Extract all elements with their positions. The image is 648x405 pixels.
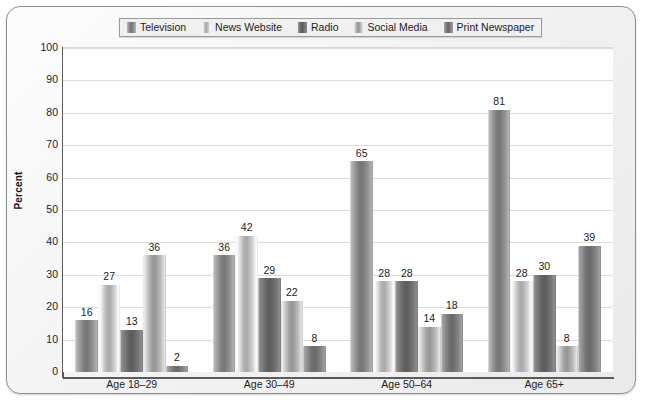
bar-value-label: 81 bbox=[493, 96, 505, 107]
bar-slot: 2 bbox=[166, 48, 189, 372]
bar-slot: 30 bbox=[533, 48, 556, 372]
y-tick-label: 80 bbox=[28, 107, 58, 118]
bar-slot: 22 bbox=[281, 48, 304, 372]
bar[interactable] bbox=[281, 301, 304, 372]
legend-label: Radio bbox=[311, 22, 338, 33]
legend-label: Television bbox=[140, 22, 186, 33]
bar[interactable] bbox=[303, 346, 326, 372]
bar-slot: 13 bbox=[120, 48, 143, 372]
bar-value-label: 2 bbox=[174, 352, 180, 363]
y-tick-label: 100 bbox=[28, 42, 58, 53]
bar-slot: 27 bbox=[98, 48, 121, 372]
bar-slot: 81 bbox=[488, 48, 511, 372]
bar-slot: 65 bbox=[350, 48, 373, 372]
bar[interactable] bbox=[373, 281, 396, 372]
bar[interactable] bbox=[578, 246, 601, 372]
x-axis-label: Age 50–64 bbox=[338, 378, 476, 390]
legend-label: News Website bbox=[215, 22, 282, 33]
bar[interactable] bbox=[166, 366, 189, 372]
legend-item-print-newspaper[interactable]: Print Newspaper bbox=[444, 22, 535, 33]
legend-item-news-website[interactable]: News Website bbox=[202, 22, 282, 33]
bar[interactable] bbox=[235, 236, 258, 372]
bar-value-label: 13 bbox=[126, 316, 138, 327]
y-tick-label: 10 bbox=[28, 333, 58, 344]
bar-slot: 18 bbox=[441, 48, 464, 372]
bar[interactable] bbox=[441, 314, 464, 372]
bar-slot: 14 bbox=[418, 48, 441, 372]
bar-group-bars: 364229228 bbox=[213, 48, 326, 372]
bar[interactable] bbox=[488, 110, 511, 372]
x-axis-category-labels: Age 18–29Age 30–49Age 50–64Age 65+ bbox=[63, 378, 613, 390]
bar-group: 6528281418 bbox=[338, 48, 476, 372]
bar-value-label: 30 bbox=[538, 261, 550, 272]
bar-group: 364229228 bbox=[201, 48, 339, 372]
bar[interactable] bbox=[556, 346, 579, 372]
bar-slot: 36 bbox=[213, 48, 236, 372]
legend-item-radio[interactable]: Radio bbox=[298, 22, 338, 33]
bar-value-label: 8 bbox=[564, 333, 570, 344]
bar-group-bars: 6528281418 bbox=[350, 48, 463, 372]
bar-value-label: 8 bbox=[311, 333, 317, 344]
bar-slot: 8 bbox=[556, 48, 579, 372]
plot-area: 1627133623642292286528281418812830839 bbox=[63, 47, 613, 372]
bar[interactable] bbox=[395, 281, 418, 372]
bar-slot: 16 bbox=[75, 48, 98, 372]
bar-value-label: 16 bbox=[81, 307, 93, 318]
legend-swatch-icon bbox=[354, 22, 363, 33]
bar[interactable] bbox=[510, 281, 533, 372]
bar[interactable] bbox=[143, 255, 166, 372]
x-axis-label: Age 65+ bbox=[476, 378, 614, 390]
y-axis-tick-labels: 1009080706050403020100 bbox=[25, 47, 58, 371]
legend-swatch-icon bbox=[444, 22, 453, 33]
bar-value-label: 65 bbox=[356, 148, 368, 159]
legend-swatch-icon bbox=[127, 22, 136, 33]
y-tick-label: 40 bbox=[28, 236, 58, 247]
bar[interactable] bbox=[120, 330, 143, 372]
y-tick-label: 30 bbox=[28, 269, 58, 280]
bar-value-label: 29 bbox=[263, 265, 275, 276]
x-axis-label: Age 30–49 bbox=[201, 378, 339, 390]
bar-group-bars: 162713362 bbox=[75, 48, 188, 372]
y-tick-label: 70 bbox=[28, 139, 58, 150]
bar-group-bars: 812830839 bbox=[488, 48, 601, 372]
bar-value-label: 18 bbox=[446, 300, 458, 311]
legend-item-social-media[interactable]: Social Media bbox=[354, 22, 427, 33]
bar-group: 812830839 bbox=[476, 48, 614, 372]
bar-value-label: 36 bbox=[218, 242, 230, 253]
bar-value-label: 14 bbox=[423, 313, 435, 324]
chart-legend: TelevisionNews WebsiteRadioSocial MediaP… bbox=[119, 18, 542, 37]
bar[interactable] bbox=[418, 327, 441, 372]
chart-frame: TelevisionNews WebsiteRadioSocial MediaP… bbox=[6, 6, 636, 394]
bar-slot: 8 bbox=[303, 48, 326, 372]
plot-wrap: 1627133623642292286528281418812830839 Ag… bbox=[63, 47, 613, 378]
bar[interactable] bbox=[213, 255, 236, 372]
bar-value-label: 42 bbox=[241, 222, 253, 233]
y-tick-label: 60 bbox=[28, 171, 58, 182]
bar-value-label: 36 bbox=[148, 242, 160, 253]
bar-slot: 36 bbox=[143, 48, 166, 372]
legend-swatch-icon bbox=[298, 22, 307, 33]
bar[interactable] bbox=[98, 285, 121, 372]
bar-groups: 1627133623642292286528281418812830839 bbox=[63, 48, 613, 372]
bar-slot: 28 bbox=[510, 48, 533, 372]
bar[interactable] bbox=[258, 278, 281, 372]
bar-slot: 28 bbox=[395, 48, 418, 372]
bar-value-label: 28 bbox=[378, 268, 390, 279]
bar[interactable] bbox=[75, 320, 98, 372]
legend-label: Print Newspaper bbox=[457, 22, 535, 33]
bar[interactable] bbox=[533, 275, 556, 372]
bar-value-label: 28 bbox=[401, 268, 413, 279]
y-tick-label: 90 bbox=[28, 74, 58, 85]
legend-item-television[interactable]: Television bbox=[127, 22, 186, 33]
bar[interactable] bbox=[350, 161, 373, 372]
y-tick-label: 20 bbox=[28, 301, 58, 312]
legend-label: Social Media bbox=[367, 22, 427, 33]
bar-slot: 42 bbox=[235, 48, 258, 372]
y-tick-label: 50 bbox=[28, 204, 58, 215]
y-axis-title: Percent bbox=[13, 171, 24, 209]
x-axis-label: Age 18–29 bbox=[63, 378, 201, 390]
bar-value-label: 28 bbox=[516, 268, 528, 279]
bar-value-label: 22 bbox=[286, 287, 298, 298]
bar-value-label: 27 bbox=[103, 271, 115, 282]
bar-slot: 28 bbox=[373, 48, 396, 372]
